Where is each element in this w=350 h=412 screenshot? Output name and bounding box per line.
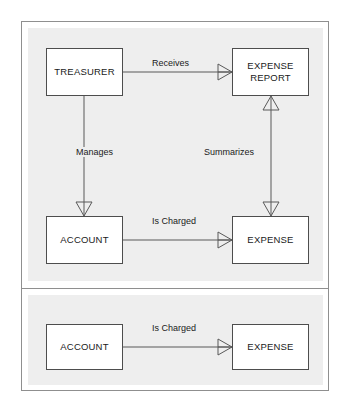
entity-treasurer[interactable]: TREASURER <box>46 48 123 96</box>
entity-account-bottom[interactable]: ACCOUNT <box>46 324 123 370</box>
relationship-label-is-charged-top: Is Charged <box>150 216 198 226</box>
entity-account-top[interactable]: ACCOUNT <box>46 216 123 264</box>
entity-expense-report-label: EXPENSE REPORT <box>247 60 293 84</box>
panel-divider <box>22 288 328 289</box>
relationship-label-is-charged-bottom: Is Charged <box>150 323 198 333</box>
relationship-label-receives: Receives <box>150 58 191 68</box>
entity-expense-bottom-label: EXPENSE <box>247 341 293 353</box>
entity-expense-top[interactable]: EXPENSE <box>232 216 309 264</box>
relationship-label-manages: Manages <box>74 147 115 157</box>
entity-account-bottom-label: ACCOUNT <box>60 341 108 353</box>
relationship-label-summarizes: Summarizes <box>202 147 256 157</box>
entity-account-top-label: ACCOUNT <box>60 234 108 246</box>
diagram-frame: TREASURER EXPENSE REPORT ACCOUNT EXPENSE… <box>21 21 329 391</box>
entity-expense-report-line2: REPORT <box>250 72 291 83</box>
entity-expense-bottom[interactable]: EXPENSE <box>232 324 309 370</box>
entity-treasurer-label: TREASURER <box>54 66 114 78</box>
entity-expense-report-line1: EXPENSE <box>247 60 293 71</box>
entity-expense-report[interactable]: EXPENSE REPORT <box>232 48 309 96</box>
entity-expense-top-label: EXPENSE <box>247 234 293 246</box>
